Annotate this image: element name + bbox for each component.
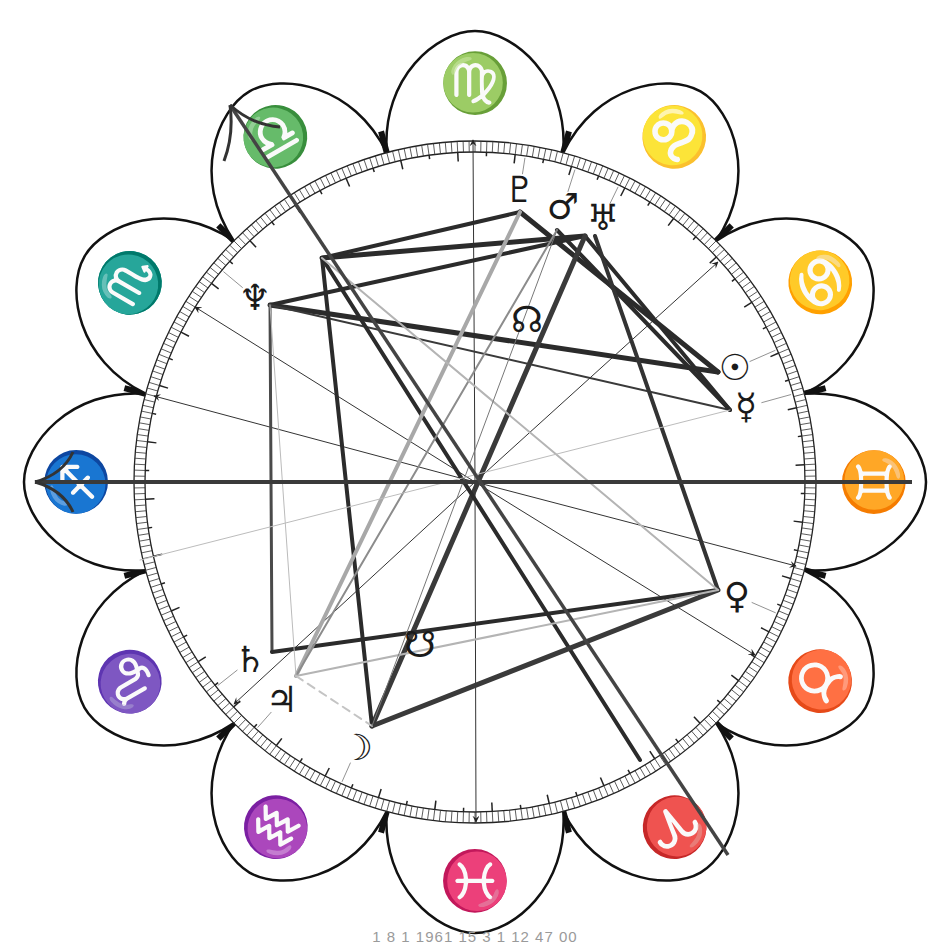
aspect-line: [296, 230, 557, 676]
house-cusp-line: [475, 262, 718, 482]
aspect-line: [270, 236, 585, 305]
sign-glyph-pisces-icon: ♓: [439, 847, 511, 915]
planet-venus-icon: ♀: [724, 575, 750, 616]
aspect-line: [270, 305, 296, 676]
sign-scorpio: ♏: [76, 219, 233, 394]
aspect-line: [595, 236, 718, 590]
sign-virgo: ♍: [386, 31, 569, 153]
planet-moon-icon: ☽: [341, 727, 373, 768]
sign-capricorn: ♑: [76, 570, 233, 745]
planet-mars-icon: ♂: [547, 186, 579, 227]
sign-glyph-virgo-icon: ♍: [439, 49, 511, 117]
aspect-lines: [140, 212, 730, 760]
house-cusp-line: [475, 482, 796, 566]
chart-wheel: ♍♌♋♊♉♈♓♒♑♐♏♎♇♂♅♆☊☉☿♀☋♄♃☽: [0, 0, 950, 950]
aspect-line: [296, 212, 520, 676]
aspect-line: [585, 236, 730, 410]
planets: ♇♂♅♆☊☉☿♀☋♄♃☽: [218, 158, 791, 782]
planet-pluto-icon: ♇: [504, 169, 536, 210]
aspect-line: [140, 410, 730, 560]
sign-aries: ♈: [563, 723, 738, 880]
sign-libra: ♎: [212, 83, 387, 240]
aspect-line: [557, 230, 730, 410]
natal-chart: ♍♌♋♊♉♈♓♒♑♐♏♎♇♂♅♆☊☉☿♀☋♄♃☽ 1 8 1 1961 15 3…: [0, 0, 950, 950]
planet-mercury-icon: ☿: [735, 386, 757, 427]
aspect-line: [270, 305, 272, 652]
planet-sun-icon: ☉: [719, 347, 751, 388]
planet-north-node-icon: ☊: [511, 299, 543, 340]
aspect-line: [270, 305, 730, 410]
planet-saturn-icon: ♄: [234, 639, 266, 680]
house-cusp-line: [475, 482, 476, 822]
planet-south-node-icon: ☋: [404, 624, 436, 665]
planet-uranus-icon: ♅: [587, 197, 619, 238]
aspect-line: [296, 676, 372, 726]
aspect-line: [272, 590, 718, 652]
sign-gemini: ♊: [804, 393, 926, 576]
chart-caption: 1 8 1 1961 15 3 1 12 47 00: [0, 928, 950, 945]
planet-neptune-icon: ♆: [239, 277, 271, 318]
planet-jupiter-icon: ♃: [266, 679, 298, 720]
sign-pisces: ♓: [381, 811, 564, 933]
